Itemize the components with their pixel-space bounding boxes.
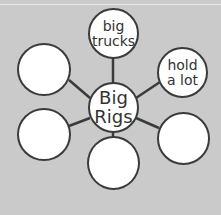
spoke-node-right-top: hold a lot (157, 47, 208, 98)
connector-right-top (136, 82, 160, 98)
center-text: Big Rigs (94, 89, 132, 127)
spoke-node-top: big trucks (88, 8, 139, 59)
connector-left-top (69, 80, 90, 98)
connector-left-bottom (69, 118, 90, 126)
spoke-node-left-top (17, 43, 71, 96)
spoke-text-right-top: hold a lot (167, 58, 198, 87)
spoke-node-right-bottom (157, 112, 210, 165)
word-web-diagram: big trucks hold a lot Big Rigs (0, 0, 221, 215)
center-node: Big Rigs (88, 82, 139, 133)
spoke-node-bottom (87, 136, 140, 190)
spoke-text-top: big trucks (92, 19, 135, 48)
spoke-node-left-bottom (17, 108, 71, 161)
connector-right-bottom (136, 118, 159, 128)
